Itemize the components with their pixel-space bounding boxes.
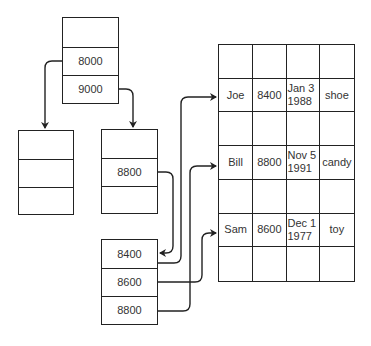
table-cell [253, 45, 286, 79]
table-cell [287, 247, 320, 281]
table-cell [287, 45, 320, 79]
arrow-8400-to-joe [158, 97, 216, 263]
arrow-8600-to-sam [158, 233, 216, 282]
table-cell-date: Nov 5 1991 [287, 146, 320, 180]
data-table: Joe 8400 Jan 3 1988 shoe Bill 8800 Nov 5… [218, 44, 355, 282]
leaf-node-cell: 8400 [102, 240, 157, 269]
table-cell-item: shoe [320, 79, 354, 113]
table-cell [287, 112, 320, 146]
table-cell [219, 180, 253, 214]
table-cell-id: 8400 [253, 79, 286, 113]
right-child-cell [102, 130, 157, 159]
root-node: 8000 9000 [62, 17, 119, 104]
leaf-node: 8400 8600 8800 [101, 239, 158, 325]
right-child-node: 8800 [101, 129, 158, 214]
table-cell [219, 45, 253, 79]
root-node-cell: 8000 [63, 47, 118, 76]
table-cell-name: Joe [219, 79, 253, 113]
left-child-cell [19, 131, 73, 160]
table-cell-date: Dec 1 1977 [287, 214, 320, 248]
root-node-cell: 9000 [63, 75, 118, 103]
table-cell [320, 247, 354, 281]
table-cell [320, 112, 354, 146]
table-cell-name: Bill [219, 146, 253, 180]
left-child-cell [19, 159, 73, 188]
table-cell-item: candy [320, 146, 354, 180]
arrow-8800-to-leaf-8400 [158, 172, 173, 253]
table-cell-date: Jan 3 1988 [287, 79, 320, 113]
arrow-8800-to-bill [158, 166, 216, 311]
right-child-cell [102, 186, 157, 213]
table-cell [287, 180, 320, 214]
leaf-node-cell: 8600 [102, 268, 157, 297]
table-cell-id: 8800 [253, 146, 286, 180]
arrow-8000-to-left-child [45, 61, 62, 128]
table-cell [219, 112, 253, 146]
table-cell-name: Sam [219, 214, 253, 248]
left-child-cell [19, 187, 73, 214]
leaf-node-cell: 8800 [102, 296, 157, 324]
table-cell [219, 247, 253, 281]
table-cell [253, 112, 286, 146]
arrow-9000-to-right-child [118, 89, 133, 127]
table-cell-item: toy [320, 214, 354, 248]
table-cell-id: 8600 [253, 214, 286, 248]
table-cell [320, 180, 354, 214]
root-node-cell [63, 18, 118, 48]
table-cell [253, 247, 286, 281]
right-child-cell: 8800 [102, 158, 157, 187]
left-child-node [18, 130, 74, 215]
table-cell [320, 45, 354, 79]
table-cell [253, 180, 286, 214]
